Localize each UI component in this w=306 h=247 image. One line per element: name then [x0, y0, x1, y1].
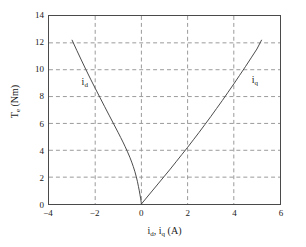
x-axis-tick-labels: −4−20246 — [48, 209, 281, 223]
series-layer — [49, 16, 280, 204]
x-tick-label: 4 — [232, 209, 237, 218]
x-tick-label: −4 — [43, 209, 53, 218]
plot-area: id iq — [48, 15, 281, 205]
y-tick-label: 14 — [35, 11, 44, 20]
chart-figure: 02468101214 Te (Nm) id iq −4−20246 id, i… — [0, 0, 306, 247]
y-tick-label: 2 — [40, 173, 45, 182]
series-annotation-id: id — [82, 77, 88, 88]
series-line-iq — [141, 40, 261, 204]
x-tick-label: 6 — [279, 209, 284, 218]
x-tick-label: 0 — [139, 209, 144, 218]
y-tick-label: 10 — [35, 65, 44, 74]
series-annotation-iq: iq — [252, 75, 258, 86]
x-tick-label: −2 — [90, 209, 100, 218]
y-tick-label: 4 — [40, 146, 45, 155]
y-tick-label: 12 — [35, 38, 44, 47]
x-tick-label: 2 — [186, 209, 191, 218]
y-tick-label: 8 — [40, 92, 45, 101]
y-axis-title: Te (Nm) — [9, 42, 22, 162]
y-axis-title-text: Te (Nm) — [9, 85, 20, 118]
x-axis-title: id, iq (A) — [48, 225, 281, 238]
series-line-id — [72, 40, 141, 204]
y-tick-label: 6 — [40, 119, 45, 128]
